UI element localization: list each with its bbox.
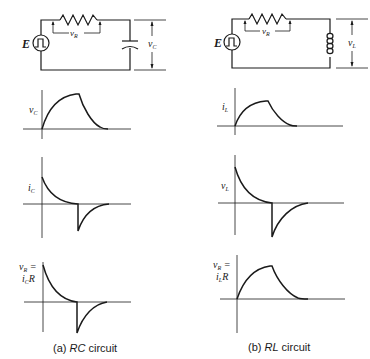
rl-circuit-schematic: vR E vL <box>213 14 368 68</box>
svg-text:iLR: iLR <box>216 271 228 283</box>
rc-circuit-schematic: vR E vC <box>21 15 166 70</box>
svg-text:vL: vL <box>348 37 356 49</box>
svg-text:iL: iL <box>222 101 229 113</box>
resistor-icon <box>249 14 286 24</box>
svg-text:vR: vR <box>70 28 78 39</box>
svg-text:iCR: iCR <box>22 273 35 285</box>
svg-text:vR: vR <box>262 26 270 37</box>
vc-waveform <box>42 94 108 129</box>
rc-caption: (a) RC circuit <box>53 342 117 354</box>
vr-waveform <box>237 266 308 299</box>
svg-text:vC: vC <box>148 38 157 50</box>
square-wave-source-icon <box>224 34 240 50</box>
square-wave-source-icon <box>33 35 49 51</box>
svg-text:vR =: vR = <box>213 259 230 271</box>
rc-source-label: E <box>21 37 30 51</box>
resistor-icon <box>60 15 97 25</box>
svg-text:vL: vL <box>221 180 229 192</box>
svg-text:vC: vC <box>29 104 38 116</box>
svg-text:iC: iC <box>28 182 36 194</box>
rl-source-label: E <box>213 36 222 50</box>
rc-graph-vc: vC <box>23 90 131 139</box>
il-waveform <box>235 101 297 126</box>
capacitor-icon <box>122 41 138 49</box>
rc-rl-figure: vR E vC vC iC vR = iCR <box>0 0 370 359</box>
vl-waveform <box>235 167 308 237</box>
rl-graph-vr: vR = iLR <box>213 255 345 333</box>
svg-text:vR =: vR = <box>19 261 36 273</box>
rl-graph-vl: vL <box>218 155 344 237</box>
vr-waveform <box>43 265 107 333</box>
rl-caption: (b) RL circuit <box>248 341 310 353</box>
rl-graph-il: iL <box>217 88 343 135</box>
rc-graph-vr: vR = iCR <box>19 261 131 333</box>
inductor-icon <box>327 33 334 57</box>
rc-graph-ic: iC <box>23 157 131 238</box>
